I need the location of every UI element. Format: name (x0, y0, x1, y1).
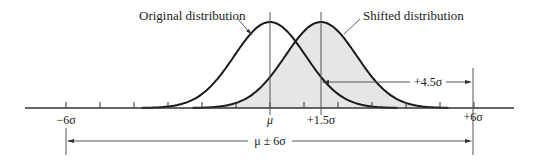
distribution-diagram: +4.5σ μ ± 6σ −6σ μ +1.5σ +6σ Original di… (0, 0, 534, 162)
range-label: μ ± 6σ (254, 134, 286, 148)
shifted-distribution-label: Shifted distribution (363, 8, 464, 23)
arrowhead-right-icon (465, 80, 472, 84)
arrowhead-left-icon (67, 139, 74, 143)
plus45-label: +4.5σ (414, 75, 443, 89)
plus6-label: +6σ (463, 110, 483, 124)
arrowhead-right-icon (465, 139, 472, 143)
original-distribution-label: Original distribution (139, 8, 246, 23)
shifted-pointer (344, 19, 360, 34)
mu-label: μ (266, 113, 273, 127)
minus6-label: −6σ (56, 113, 76, 127)
plus15-label: +1.5σ (307, 113, 336, 127)
